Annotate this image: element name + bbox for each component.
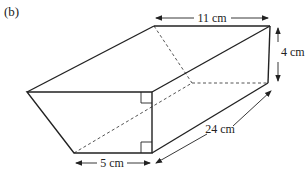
edge-top-right-length — [152, 26, 270, 92]
hidden-edges — [74, 26, 268, 153]
dimension-arrows — [76, 18, 278, 163]
dim-label-top-width: 11 cm — [197, 11, 227, 25]
diagram-canvas: (b) 11 cm 4 cm 24 cm 5 cm — [0, 0, 308, 172]
right-angle-mark-bottom — [141, 142, 152, 153]
figure-label: (b) — [4, 4, 19, 19]
hidden-edge-bottom-length — [74, 83, 192, 153]
right-angle-mark-top — [141, 92, 152, 103]
dim-label-length: 24 cm — [205, 122, 235, 136]
edge-back-right — [268, 26, 270, 83]
edge-top-left-length — [27, 26, 154, 92]
edge-bottom-right-length — [152, 83, 268, 153]
right-angle-marks — [141, 92, 152, 153]
dim-label-bottom-width: 5 cm — [100, 156, 124, 170]
prism-diagram: (b) 11 cm 4 cm 24 cm 5 cm — [0, 0, 308, 172]
dim-label-height: 4 cm — [281, 45, 305, 59]
dim-arrow-24cm-up — [233, 91, 271, 126]
dim-arrow-24cm-down — [156, 134, 207, 163]
hidden-edge-back-slant — [154, 26, 192, 83]
